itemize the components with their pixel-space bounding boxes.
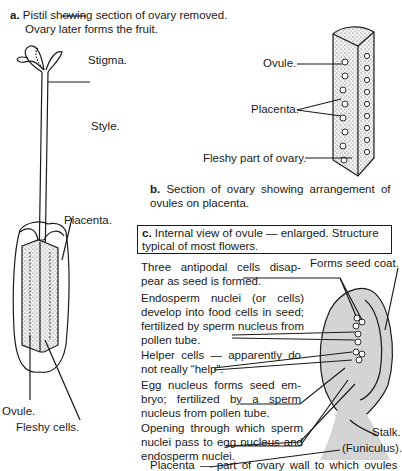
label-style: Style. [91, 119, 120, 133]
label-antipodal: Three antipodal cells disap- pear as see… [141, 260, 301, 288]
label-ovule-a: Ovule. [2, 404, 35, 418]
label-fleshy-part: Fleshy part of ovary. [203, 151, 306, 165]
label-placenta-b: Placenta. [251, 102, 299, 116]
label-endosperm: Endosperm nuclei (or cells) develop into… [141, 291, 304, 347]
figure-b-caption-line1: Section of ovary showing arrangement of [166, 183, 390, 195]
figure-a-letter: a. [10, 9, 20, 21]
figure-c-caption-line2: typical of most flowers. [142, 240, 387, 253]
figure-b-caption-line2: ovules on placenta. [150, 196, 249, 210]
label-placenta-a: Placenta. [64, 213, 112, 227]
label-stalk: Stalk. [372, 425, 401, 439]
label-egg-nucleus: Egg nucleus forms seed em- bryo; fertili… [141, 378, 301, 420]
label-seed-coat: Forms seed coat. [310, 256, 399, 270]
figure-a-caption-line2: Ovary later forms the fruit. [25, 22, 158, 36]
figure-c-letter: c. [142, 227, 152, 239]
ovary-section-drawing [297, 27, 374, 176]
label-helper-cells: Helper cells — apparently do not really … [141, 348, 301, 376]
figure-b-caption: b. Section of ovary showing arrangement … [150, 182, 390, 196]
label-opening: Opening through which sperm nuclei pass … [141, 421, 303, 463]
label-funiculus: (Funiculus). [342, 441, 402, 455]
figure-a-caption: a. Pistil showing section of ovary remov… [10, 8, 227, 22]
figure-a-caption-line1: Pistil showing section of ovary removed. [23, 9, 228, 21]
figure-c-caption-box: c. Internal view of ovule — enlarged. St… [137, 225, 392, 254]
label-ovule-b: Ovule. [263, 56, 296, 70]
label-stigma: Stigma. [88, 53, 127, 67]
figure-c-caption-line1: Internal view of ovule — enlarged. Struc… [155, 227, 379, 239]
figure-b-letter: b. [150, 183, 160, 195]
label-fleshy-cells: Fleshy cells. [16, 420, 79, 434]
label-placenta-note: Placenta — part of ovary wall to which o… [150, 458, 397, 471]
